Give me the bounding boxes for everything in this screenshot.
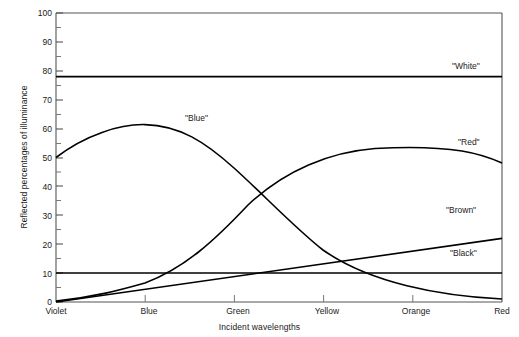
chart-figure: Reflected percentages of illuminance Inc… <box>0 0 519 337</box>
x-axis-ticks <box>145 295 413 302</box>
series-curve-red <box>56 147 502 301</box>
plot-frame <box>56 13 502 302</box>
chart-canvas <box>0 0 519 337</box>
